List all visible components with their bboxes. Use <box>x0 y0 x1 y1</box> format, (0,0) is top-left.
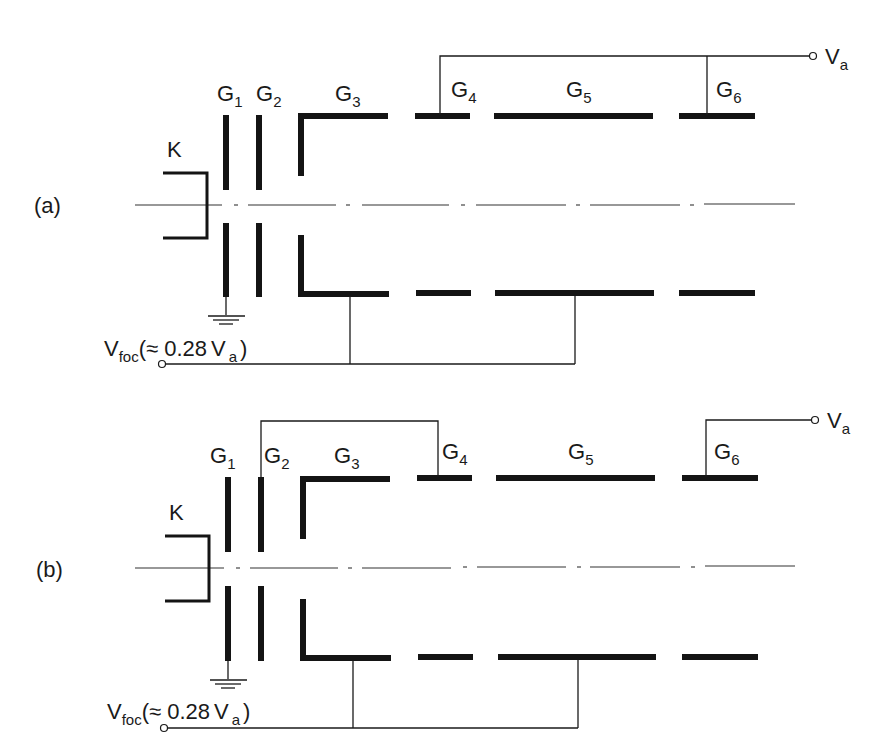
electrode-g2-b: G2 <box>258 443 289 661</box>
svg-text:G1: G1 <box>210 443 235 472</box>
svg-text:G5: G5 <box>566 77 591 106</box>
panel-label-b: (b) <box>36 557 63 582</box>
focus-wiring-b: Vfoc(≈ 0.28Va) <box>107 660 578 732</box>
cathode-label-a: K <box>167 137 182 162</box>
electrode-g3-b: G3 <box>300 443 391 661</box>
electrode-g6-b: G6 <box>682 439 758 660</box>
focus-voltage-label-b: Vfoc(≈ 0.28Va) <box>107 699 250 728</box>
electrode-g2-a: G2 <box>256 81 281 297</box>
svg-text:G2: G2 <box>256 81 281 110</box>
optical-axis-b <box>135 566 795 568</box>
svg-text:Va: Va <box>827 408 851 437</box>
panel-label-a: (a) <box>34 193 61 218</box>
svg-text:G4: G4 <box>451 77 476 106</box>
svg-text:G2: G2 <box>264 443 289 472</box>
electrode-g4-b: G4 <box>417 439 473 660</box>
ground-symbol-b <box>210 661 247 688</box>
ground-symbol-a <box>208 297 245 324</box>
focus-terminal-b <box>161 725 168 732</box>
panel-b: (b) K G1 <box>36 408 851 732</box>
optical-axis-a <box>135 204 795 205</box>
svg-text:G1: G1 <box>217 81 242 110</box>
cathode-a: K <box>163 137 207 238</box>
svg-text:Va: Va <box>825 44 849 73</box>
electron-gun-diagram: (a) K G1 <box>0 0 886 741</box>
focus-voltage-label-a: Vfoc(≈ 0.28Va) <box>104 336 247 365</box>
anode-terminal-b <box>812 417 819 424</box>
electrode-g5-b: G5 <box>496 439 656 660</box>
svg-text:G3: G3 <box>335 81 360 110</box>
focus-terminal-a <box>159 361 166 368</box>
svg-text:G4: G4 <box>442 439 467 468</box>
svg-text:G6: G6 <box>716 77 741 106</box>
electrode-g6-a: G6 <box>679 77 755 296</box>
svg-text:G6: G6 <box>714 439 739 468</box>
electrode-g4-a: G4 <box>415 77 476 296</box>
panel-a: (a) K G1 <box>34 44 849 368</box>
focus-wiring-a: Vfoc(≈ 0.28Va) <box>104 296 575 368</box>
anode-terminal-a <box>810 53 817 60</box>
electrode-g1-b: G1 <box>210 443 235 661</box>
cathode-label-b: K <box>169 500 184 525</box>
electrode-g3-a: G3 <box>298 81 389 297</box>
electrode-g5-a: G5 <box>494 77 654 296</box>
svg-text:G5: G5 <box>568 439 593 468</box>
svg-text:G3: G3 <box>334 443 359 472</box>
electrode-g1-a: G1 <box>217 81 242 297</box>
anode-wiring-a: Va <box>440 44 849 115</box>
cathode-b: K <box>165 500 209 601</box>
